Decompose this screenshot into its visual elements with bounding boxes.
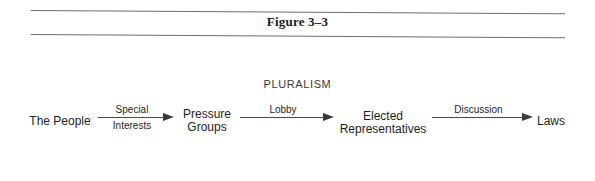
arrow-line xyxy=(432,117,525,118)
edge-label-bottom: Interests xyxy=(98,120,166,131)
arrow-head-icon xyxy=(522,113,533,121)
edge-label-top: Discussion xyxy=(432,104,525,115)
edge-label-top: Special xyxy=(98,104,166,115)
node-label: The People xyxy=(26,115,94,128)
node-pressure-groups: Pressure Groups xyxy=(176,108,238,134)
edge-label-top: Lobby xyxy=(240,104,326,115)
arrow-discussion: Discussion xyxy=(432,103,533,133)
arrow-special-interests: Special Interests xyxy=(98,103,174,133)
figure-bottom-rule xyxy=(31,34,565,38)
node-label: Laws xyxy=(534,115,568,128)
arrow-lobby: Lobby xyxy=(240,103,334,133)
arrow-line xyxy=(240,117,326,118)
node-the-people: The People xyxy=(26,115,94,128)
node-laws: Laws xyxy=(534,115,568,128)
figure-title: Figure 3–3 xyxy=(0,14,595,30)
node-label-line-2: Groups xyxy=(176,121,238,134)
node-label-line-2: Representatives xyxy=(334,123,432,136)
node-elected-representatives: Elected Representatives xyxy=(334,110,432,136)
arrow-head-icon xyxy=(323,113,334,121)
arrow-line xyxy=(98,117,166,118)
diagram-heading: PLURALISM xyxy=(0,78,595,90)
